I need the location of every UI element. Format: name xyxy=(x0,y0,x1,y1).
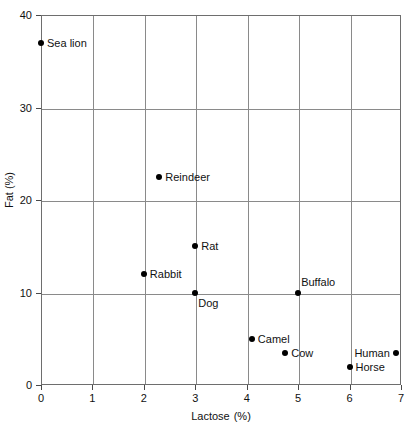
x-axis-tick-label: 0 xyxy=(26,392,56,404)
gridline-vertical xyxy=(299,16,300,384)
data-point-label: Dog xyxy=(198,297,218,309)
scatter-chart-figure: Sea lionReindeerRatRabbitDogBuffaloCamel… xyxy=(0,0,417,434)
data-point-label: Camel xyxy=(258,333,290,345)
gridline-vertical xyxy=(196,16,197,384)
data-point-label: Sea lion xyxy=(47,37,87,49)
x-axis-tick-label: 1 xyxy=(77,392,107,404)
x-axis-tick-label: 2 xyxy=(129,392,159,404)
x-axis-tick xyxy=(350,385,351,390)
x-axis-tick-label: 6 xyxy=(335,392,365,404)
x-axis-tick-label: 4 xyxy=(232,392,262,404)
gridline-vertical xyxy=(248,16,249,384)
y-axis-tick xyxy=(36,385,41,386)
gridline-vertical xyxy=(93,16,94,384)
data-point xyxy=(282,350,288,356)
x-axis-tick-label: 7 xyxy=(386,392,416,404)
y-axis-tick xyxy=(36,108,41,109)
data-point xyxy=(192,290,198,296)
x-axis-tick xyxy=(298,385,299,390)
gridline-horizontal xyxy=(42,109,400,110)
data-point-label: Rabbit xyxy=(150,268,182,280)
gridline-horizontal xyxy=(42,294,400,295)
x-axis-tick xyxy=(401,385,402,390)
gridline-vertical xyxy=(145,16,146,384)
y-axis-tick-label: 20 xyxy=(0,194,32,206)
gridline-vertical xyxy=(351,16,352,384)
data-point-label: Human xyxy=(354,347,389,359)
data-point xyxy=(38,40,44,46)
x-axis-tick xyxy=(195,385,196,390)
x-axis-tick-label: 3 xyxy=(180,392,210,404)
y-axis-tick-label: 30 xyxy=(0,102,32,114)
data-point xyxy=(141,271,147,277)
x-axis-title-text: Lactose xyxy=(191,410,230,422)
data-point xyxy=(295,290,301,296)
y-axis-tick xyxy=(36,15,41,16)
data-point-label: Reindeer xyxy=(165,171,210,183)
y-axis-tick xyxy=(36,293,41,294)
data-point-label: Buffalo xyxy=(301,276,335,288)
y-axis-tick xyxy=(36,200,41,201)
x-axis-tick xyxy=(247,385,248,390)
x-axis-tick-label: 5 xyxy=(283,392,313,404)
data-point xyxy=(393,350,399,356)
gridline-horizontal xyxy=(42,201,400,202)
y-axis-tick-label: 10 xyxy=(0,287,32,299)
data-point-label: Rat xyxy=(201,240,218,252)
data-point-label: Cow xyxy=(291,347,313,359)
plot-area xyxy=(41,15,401,385)
y-axis-tick-label: 40 xyxy=(0,9,32,21)
y-axis-title: Fat (%) xyxy=(3,160,15,220)
x-axis-title: Lactose(%) xyxy=(41,410,401,422)
data-point-label: Horse xyxy=(356,361,385,373)
x-axis-tick xyxy=(144,385,145,390)
data-point xyxy=(249,336,255,342)
x-axis-tick xyxy=(92,385,93,390)
y-axis-tick-label: 0 xyxy=(0,379,32,391)
data-point xyxy=(347,364,353,370)
x-axis-title-unit: (%) xyxy=(234,410,251,422)
x-axis-tick xyxy=(41,385,42,390)
